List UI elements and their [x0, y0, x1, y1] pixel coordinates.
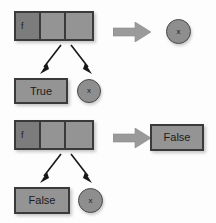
- branch-arrow-right-bottom: [68, 152, 96, 184]
- closure-cell-box-top: f: [14, 11, 94, 41]
- closure-cell-0-bottom-label: f: [16, 131, 24, 140]
- closure-cell-1-bottom: [41, 122, 67, 148]
- result-value-false-label: False: [164, 132, 191, 143]
- closure-cell-0-top-label: f: [16, 22, 24, 31]
- child-value-false: False: [14, 187, 70, 214]
- branch-arrow-right-top: [68, 43, 96, 75]
- result-node-x-top: x: [166, 19, 191, 44]
- closure-cell-2-bottom: [66, 122, 92, 148]
- closure-cell-1-top: [41, 13, 67, 39]
- child-node-x-bottom: x: [78, 188, 103, 213]
- result-value-false: False: [150, 124, 204, 151]
- child-node-x-top-label: x: [87, 87, 91, 95]
- child-value-true-label: True: [30, 86, 52, 97]
- evaluates-to-arrow-top: [113, 22, 152, 42]
- result-node-x-top-label: x: [177, 28, 181, 36]
- evaluates-to-arrow-bottom: [113, 128, 152, 148]
- closure-cell-2-top: [66, 13, 92, 39]
- child-node-x-bottom-label: x: [89, 197, 93, 205]
- diagram-canvas: f x True x: [0, 0, 216, 223]
- closure-cell-0-bottom: f: [16, 122, 41, 148]
- child-value-false-label: False: [29, 195, 56, 206]
- child-node-x-top: x: [77, 79, 101, 103]
- branch-arrow-left-bottom: [36, 152, 64, 184]
- child-value-true: True: [14, 78, 68, 104]
- closure-cell-0-top: f: [16, 13, 41, 39]
- branch-arrow-left-top: [36, 43, 64, 75]
- closure-cell-box-bottom: f: [14, 120, 94, 150]
